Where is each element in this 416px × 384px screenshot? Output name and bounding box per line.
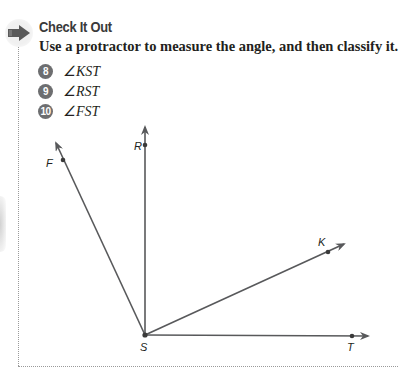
point-label-k: K <box>318 236 326 248</box>
point-label-r: R <box>134 140 142 152</box>
vertex-point <box>142 332 147 337</box>
ray-st <box>145 335 368 336</box>
point-label-f: F <box>46 157 54 169</box>
point-label-t: T <box>347 341 355 353</box>
vertex-label: S <box>140 341 148 353</box>
point-f <box>61 158 66 163</box>
point-k <box>326 250 331 255</box>
angle-diagram: FRKT S <box>0 0 416 384</box>
ray-sk <box>145 244 344 335</box>
rays-group: FRKT <box>46 127 368 353</box>
point-t <box>350 334 355 339</box>
ray-sf <box>56 143 145 335</box>
point-r <box>143 143 148 148</box>
